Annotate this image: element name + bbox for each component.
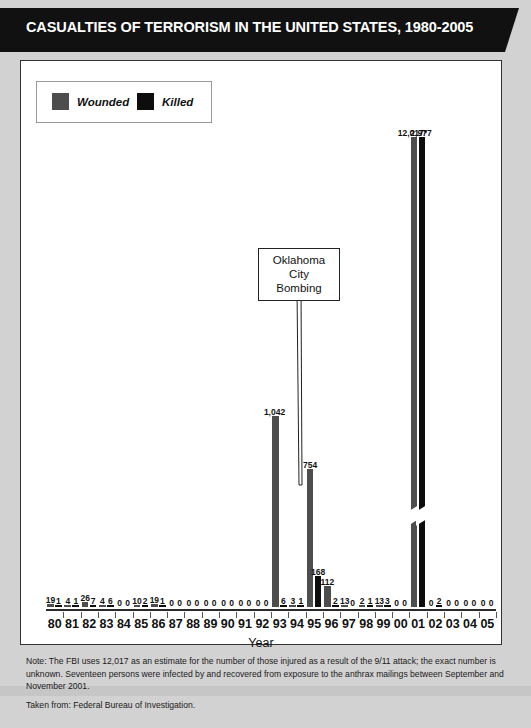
x-axis-title: Year bbox=[21, 636, 501, 650]
footnote-source: Taken from: Federal Bureau of Investigat… bbox=[26, 700, 506, 710]
bar-value-label: 2 bbox=[437, 596, 442, 606]
bar-wounded-93 bbox=[272, 416, 279, 607]
bar-value-label: 19 bbox=[46, 595, 55, 605]
annotation-line-2: City bbox=[261, 267, 337, 281]
bar-value-label: 1 bbox=[298, 596, 303, 606]
legend-swatch-killed-icon bbox=[137, 93, 154, 110]
bar-value-label: 0 bbox=[256, 598, 261, 608]
bar-wounded-01 bbox=[411, 137, 418, 607]
bar-value-label: 0 bbox=[177, 598, 182, 608]
bar-value-label: 4 bbox=[65, 596, 70, 606]
bar-value-label: 0 bbox=[221, 598, 226, 608]
chart-legend: Wounded Killed bbox=[36, 81, 212, 123]
bar-value-label: 0 bbox=[187, 598, 192, 608]
bar-value-label: 0 bbox=[471, 598, 476, 608]
bar-value-label: 0 bbox=[117, 598, 122, 608]
annotation-line-1: Oklahoma bbox=[261, 253, 337, 267]
bar-value-label: 0 bbox=[402, 598, 407, 608]
bar-value-label: 0 bbox=[429, 598, 434, 608]
x-axis-line bbox=[46, 609, 496, 611]
bar-value-label: 1 bbox=[160, 596, 165, 606]
bar-value-label: 1 bbox=[73, 596, 78, 606]
bar-value-label: 4 bbox=[100, 596, 105, 606]
annotation-line-3: Bombing bbox=[261, 281, 337, 295]
bar-value-label: 26 bbox=[80, 593, 89, 603]
bar-value-label: 6 bbox=[108, 596, 113, 606]
footnote-note: Note: The FBI uses 12,017 as an estimate… bbox=[26, 655, 506, 693]
bar-value-label: 13 bbox=[375, 596, 384, 606]
callout-pointer-icon bbox=[21, 61, 503, 646]
bar-value-label: 3 bbox=[290, 596, 295, 606]
legend-item-wounded: Wounded bbox=[52, 93, 129, 110]
bar-value-label: 2 bbox=[333, 596, 338, 606]
bar-wounded-96 bbox=[324, 586, 331, 607]
bar-value-label: 0 bbox=[204, 598, 209, 608]
bar-value-label: 0 bbox=[489, 598, 494, 608]
bar-value-label: 0 bbox=[481, 598, 486, 608]
legend-swatch-wounded-icon bbox=[52, 93, 69, 110]
bar-value-label: 19 bbox=[150, 595, 159, 605]
bar-value-label: 2 bbox=[143, 596, 148, 606]
bar-value-label: 0 bbox=[264, 598, 269, 608]
bar-value-label: 0 bbox=[229, 598, 234, 608]
bar-value-label: 0 bbox=[169, 598, 174, 608]
legend-item-killed: Killed bbox=[137, 93, 193, 110]
bar-value-label: 0 bbox=[212, 598, 217, 608]
title-banner: CASUALTIES OF TERRORISM IN THE UNITED ST… bbox=[0, 8, 531, 52]
bar-value-label: 0 bbox=[446, 598, 451, 608]
bar-value-label: 1 bbox=[368, 596, 373, 606]
bar-value-label: 2,977 bbox=[410, 128, 431, 138]
x-tick-label: 05 bbox=[474, 617, 500, 631]
bar-value-label: 112 bbox=[320, 577, 334, 587]
page-title: CASUALTIES OF TERRORISM IN THE UNITED ST… bbox=[26, 19, 473, 35]
bar-value-label: 10 bbox=[132, 596, 141, 606]
plot-area: Wounded Killed Oklahoma City Bombing 191… bbox=[21, 61, 501, 644]
bar-value-label: 754 bbox=[303, 460, 317, 470]
bar-value-label: 0 bbox=[463, 598, 468, 608]
bar-value-label: 6 bbox=[281, 596, 286, 606]
legend-label-killed: Killed bbox=[162, 96, 193, 108]
chart-card: Wounded Killed Oklahoma City Bombing 191… bbox=[20, 60, 502, 645]
bar-value-label: 0 bbox=[246, 598, 251, 608]
bar-value-label: 0 bbox=[454, 598, 459, 608]
bar-value-label: 0 bbox=[125, 598, 130, 608]
bar-value-label: 0 bbox=[350, 598, 355, 608]
bar-value-label: 168 bbox=[311, 567, 325, 577]
bar-value-label: 3 bbox=[385, 596, 390, 606]
bar-value-label: 7 bbox=[91, 596, 96, 606]
bar-killed-01 bbox=[419, 137, 426, 607]
bar-value-label: 0 bbox=[394, 598, 399, 608]
bar-value-label: 0 bbox=[195, 598, 200, 608]
bar-wounded-95 bbox=[307, 469, 314, 607]
bar-value-label: 1 bbox=[56, 596, 61, 606]
page-background: CASUALTIES OF TERRORISM IN THE UNITED ST… bbox=[0, 0, 531, 728]
bar-value-label: 0 bbox=[238, 598, 243, 608]
bar-value-label: 13 bbox=[340, 596, 349, 606]
bar-value-label: 1,042 bbox=[264, 407, 285, 417]
annotation-callout: Oklahoma City Bombing bbox=[258, 248, 340, 301]
legend-label-wounded: Wounded bbox=[77, 96, 129, 108]
bar-value-label: 2 bbox=[360, 596, 365, 606]
